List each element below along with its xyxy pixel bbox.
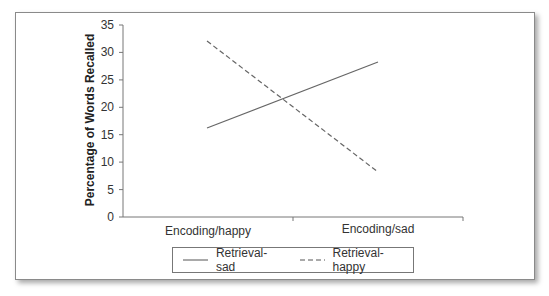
svg-text:0: 0 [107,210,114,224]
svg-text:Encoding/sad: Encoding/sad [342,222,415,236]
svg-text:5: 5 [107,183,114,197]
svg-text:20: 20 [101,100,115,114]
legend-item-retrieval-sad: Retrieval-sad [183,246,284,274]
dashed-line-icon [300,258,325,262]
svg-text:10: 10 [101,155,115,169]
svg-text:Encoding/happy: Encoding/happy [165,224,251,238]
solid-line-icon [183,258,208,262]
x-axis [123,217,463,221]
y-axis-label: Percentage of Words Recalled [83,34,97,207]
series-retrieval-sad [207,62,378,128]
svg-text:15: 15 [101,128,115,142]
svg-text:25: 25 [101,73,115,87]
legend: Retrieval-sad Retrieval-happy [172,247,414,273]
svg-text:35: 35 [101,18,115,32]
svg-text:30: 30 [101,45,115,59]
y-tick-labels: 35 30 25 20 15 10 5 0 [101,18,115,224]
legend-item-retrieval-happy: Retrieval-happy [300,246,413,274]
y-axis [119,25,123,217]
x-tick-labels: Encoding/happy Encoding/sad [165,222,414,238]
series-retrieval-happy [207,41,378,172]
